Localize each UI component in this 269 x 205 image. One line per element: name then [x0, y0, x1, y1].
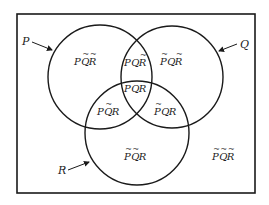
region-letter: P	[123, 57, 131, 68]
pointer-arrow-r	[68, 162, 89, 170]
region-label-r-only: P~Q~R	[123, 145, 147, 162]
negation-tilde: ~	[228, 145, 235, 154]
region-label-p-only: PQ~R~	[73, 50, 97, 67]
venn-diagram: P Q R PQ~R~P~QR~P~Q~RPQR~PQ~RP~QRPQRP~Q~…	[0, 0, 269, 205]
circle-r	[85, 81, 189, 185]
region-letter: R	[111, 106, 120, 117]
region-label-pr: PQ~R	[96, 100, 120, 117]
region-letter: P	[123, 83, 131, 94]
negation-tilde: ~	[176, 50, 183, 59]
set-label-q: Q	[240, 38, 249, 51]
pointer-arrow-q	[219, 44, 237, 51]
set-label-p: P	[21, 35, 30, 48]
negation-tilde: ~	[90, 50, 97, 59]
negation-tilde: ~	[140, 51, 147, 60]
region-letter: R	[138, 151, 147, 162]
region-letter: P	[96, 106, 104, 117]
region-label-q-only: P~QR~	[159, 50, 183, 67]
region-letter: P	[73, 56, 81, 67]
set-label-r: R	[57, 164, 66, 177]
region-label-none: P~Q~R~	[211, 145, 235, 162]
region-label-qr: P~QR	[153, 100, 177, 117]
region-letter: R	[138, 83, 147, 94]
region-labels: PQ~R~P~QR~P~Q~RPQR~PQ~RP~QRPQRP~Q~R~	[73, 50, 235, 162]
pointer-arrow-p	[32, 42, 52, 50]
region-label-pqr: PQR	[123, 83, 147, 94]
region-letter: R	[168, 106, 177, 117]
